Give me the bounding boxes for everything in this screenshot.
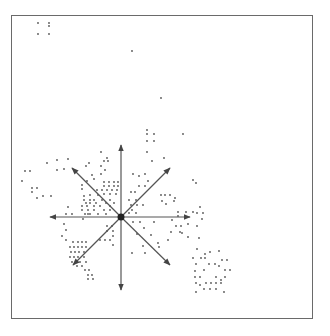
- scatter-dot: [208, 263, 210, 265]
- scatter-dot: [65, 239, 67, 241]
- arrow-south-west: [73, 217, 121, 265]
- scatter-dot: [195, 263, 197, 265]
- scatter-dot: [36, 187, 38, 189]
- scatter-dot: [48, 33, 50, 35]
- scatter-dot: [87, 213, 89, 215]
- scatter-dot: [50, 195, 52, 197]
- scatter-dot: [106, 157, 108, 159]
- scatter-dot: [46, 162, 48, 164]
- scatter-dot: [61, 235, 63, 237]
- scatter-dot: [163, 157, 165, 159]
- scatter-dot: [198, 237, 200, 239]
- scatter-dot: [63, 168, 65, 170]
- scatter-dot: [220, 282, 222, 284]
- scatter-dot: [113, 202, 115, 204]
- scatter-dot: [109, 239, 111, 241]
- scatter-dot: [89, 199, 91, 201]
- scatter-dot: [113, 185, 115, 187]
- scatter-dot: [106, 189, 108, 191]
- scatter-dot: [73, 256, 75, 258]
- scatter-dot: [128, 212, 130, 214]
- scatter-dot: [93, 205, 95, 207]
- scatter-dot: [84, 213, 86, 215]
- scatter-dot: [103, 209, 105, 211]
- scatter-dot: [89, 213, 91, 215]
- scatter-dot: [99, 205, 101, 207]
- scatter-dot: [144, 252, 146, 254]
- scatter-dot: [95, 202, 97, 204]
- scatter-dot: [100, 165, 102, 167]
- scatter-dot: [130, 191, 132, 193]
- scatter-dot: [179, 231, 181, 233]
- scatter-dot: [205, 282, 207, 284]
- scatter-dot: [209, 288, 211, 290]
- scatter-dot: [146, 140, 148, 142]
- scatter-dot: [100, 151, 102, 153]
- scatter-dot: [153, 133, 155, 135]
- scatter-dot: [187, 236, 189, 238]
- scatter-dot: [136, 204, 138, 206]
- scatter-dot: [209, 251, 211, 253]
- scatter-dot: [56, 159, 58, 161]
- scatter-dot: [224, 276, 226, 278]
- scatter-dot: [105, 213, 107, 215]
- scatter-dot: [194, 270, 196, 272]
- scatter-dot: [93, 178, 95, 180]
- scatter-dot: [83, 195, 85, 197]
- scatter-dot: [109, 199, 111, 201]
- scatter-dot: [112, 235, 114, 237]
- scatter-dot: [196, 248, 198, 250]
- scatter-dot: [192, 211, 194, 213]
- scatter-dot: [73, 246, 75, 248]
- scatter-dot: [84, 269, 86, 271]
- scatter-dot: [214, 263, 216, 265]
- scatter-dot: [161, 200, 163, 202]
- scatter-dot: [146, 151, 148, 153]
- scatter-dot: [203, 269, 205, 271]
- scatter-dot: [151, 160, 153, 162]
- scatter-dot: [146, 133, 148, 135]
- scatter-dot: [36, 197, 38, 199]
- scatter-dot: [201, 218, 203, 220]
- scatter-dot: [85, 261, 87, 263]
- scatter-dot: [81, 241, 83, 243]
- scatter-dot: [174, 197, 176, 199]
- scatter-dot: [194, 276, 196, 278]
- scatter-dot: [138, 175, 140, 177]
- scatter-dot: [69, 246, 71, 248]
- scatter-dot: [138, 185, 140, 187]
- scatter-dot: [77, 246, 79, 248]
- scatter-dot: [144, 173, 146, 175]
- scatter-dot: [42, 195, 44, 197]
- scatter-dot: [185, 211, 187, 213]
- scatter-dot: [89, 202, 91, 204]
- scatter-dot: [135, 212, 137, 214]
- scatter-dot: [170, 231, 172, 233]
- scatter-dot: [48, 25, 50, 27]
- scatter-dot: [220, 279, 222, 281]
- scatter-dot: [143, 227, 145, 229]
- scatter-dot: [171, 219, 173, 221]
- scatter-dot: [71, 213, 73, 215]
- scatter-dot: [81, 184, 83, 186]
- scatter-dot: [88, 269, 90, 271]
- scatter-dot: [72, 241, 74, 243]
- scatter-dot: [87, 274, 89, 276]
- scatter-dot: [116, 189, 118, 191]
- scatter-dot: [131, 50, 133, 52]
- scatter-dot: [139, 221, 141, 223]
- scatter-dot: [67, 206, 69, 208]
- scatter-dot: [108, 185, 110, 187]
- scatter-dot: [77, 256, 79, 258]
- scatter-dot: [106, 225, 108, 227]
- scatter-dot: [89, 194, 91, 196]
- scatter-dot: [134, 191, 136, 193]
- scatter-dot: [226, 259, 228, 261]
- scatter-dot: [97, 213, 99, 215]
- arrow-north-west: [72, 168, 121, 217]
- scatter-dot: [199, 206, 201, 208]
- scatter-dot: [37, 22, 39, 24]
- scatter-dot: [29, 170, 31, 172]
- scatter-dot: [67, 158, 69, 160]
- scatter-dot: [109, 193, 111, 195]
